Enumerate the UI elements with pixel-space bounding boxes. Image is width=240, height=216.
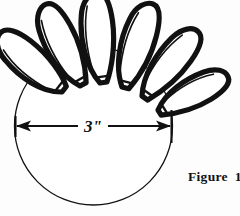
petal-3-base-dash	[97, 76, 109, 78]
dimension-label: 3"	[83, 117, 102, 136]
figure-caption: Figure1	[188, 169, 240, 185]
figure-caption-number: 1	[235, 169, 240, 184]
figure-caption-label: Figure	[188, 169, 228, 184]
figure-container: 3" Figure1	[0, 0, 240, 216]
